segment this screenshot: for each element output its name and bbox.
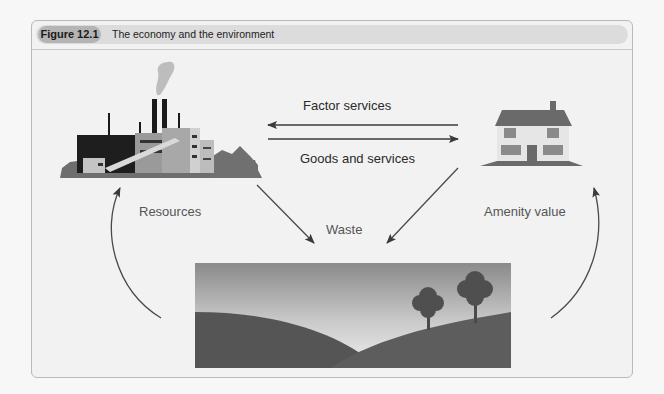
diagram-canvas — [0, 0, 664, 394]
factor-services-label: Factor services — [303, 98, 391, 113]
amenity-value-label: Amenity value — [484, 204, 566, 219]
house-waste-arrow — [387, 168, 458, 243]
waste-label: Waste — [326, 222, 362, 237]
landscape-illustration — [195, 263, 511, 368]
goods-and-services-label: Goods and services — [300, 151, 415, 166]
factory-waste-arrow — [257, 185, 314, 243]
factory-illustration — [60, 62, 262, 178]
house-illustration — [480, 101, 583, 166]
resources-label: Resources — [139, 204, 201, 219]
